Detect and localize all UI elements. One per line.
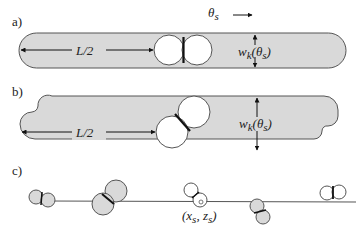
length-label-b: L/2 [75, 125, 94, 140]
width-label-b: wk(θs) [239, 116, 272, 133]
particle-c5b [332, 185, 346, 199]
figure: a) θs L/2 wk(θs) b) L/2 wk(θs) c) [0, 0, 364, 231]
particle-c2b [92, 193, 114, 215]
point-label: (xs, zs) [182, 208, 217, 225]
panel-c-label: c) [12, 163, 22, 178]
length-label-a: L/2 [75, 43, 94, 58]
particle-c1b [41, 193, 55, 207]
point-marker [199, 200, 203, 204]
bond-c1 [41, 192, 42, 205]
panel-b: b) L/2 wk(θs) [12, 84, 338, 150]
width-label-a: wk(θs) [238, 44, 271, 61]
panel-b-label: b) [12, 84, 23, 99]
particle-right-a [182, 35, 212, 65]
panel-a-label: a) [12, 14, 22, 29]
svg-text:θs: θs [208, 5, 219, 22]
theta-direction-label: θs [208, 5, 252, 22]
panel-a: a) θs L/2 wk(θs) [12, 5, 346, 68]
particle-lower-b [156, 116, 188, 148]
particle-left-a [154, 35, 184, 65]
panel-c: c) (xs, zs) [12, 163, 356, 225]
